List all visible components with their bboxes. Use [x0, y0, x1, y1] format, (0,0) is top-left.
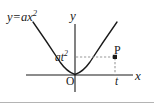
- bottom-divider: [0, 102, 154, 103]
- y-coordinate-label: at2: [55, 50, 68, 63]
- y-coordinate-exponent: 2: [64, 49, 68, 58]
- y-axis-label: y: [70, 9, 76, 22]
- curve-equation-exponent: 2: [33, 8, 37, 18]
- curve-equation-equals: =: [13, 10, 21, 24]
- x-axis-label: x: [135, 69, 141, 82]
- figure-container: y=ax2 y x at2 P O t: [0, 0, 154, 110]
- point-p-label: P: [114, 44, 121, 56]
- origin-label: O: [66, 76, 74, 88]
- x-coordinate-label: t: [115, 76, 118, 88]
- curve-equation-label: y=ax2: [7, 9, 37, 24]
